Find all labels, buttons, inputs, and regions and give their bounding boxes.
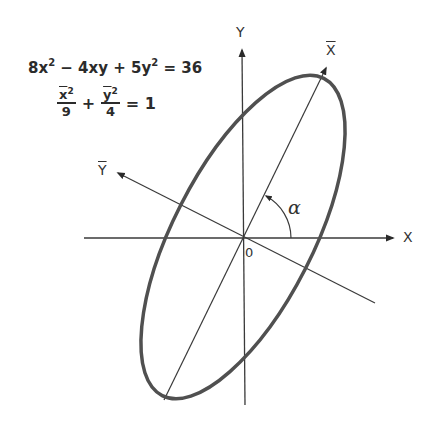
equation-rhs: = 1 xyxy=(126,94,156,113)
term-8x: 8x xyxy=(28,59,48,77)
angle-alpha-label: α xyxy=(288,196,301,218)
y-axis-label: Y xyxy=(236,24,245,40)
exponent: 2 xyxy=(67,86,73,96)
fraction-ybar: y2 4 xyxy=(101,87,120,120)
y-axis xyxy=(242,50,245,405)
denominator: 9 xyxy=(62,104,71,120)
standard-equation: x2 9 + y2 4 = 1 xyxy=(54,87,159,120)
exponent: 2 xyxy=(112,86,118,96)
x-bar-axis-label: X xyxy=(326,42,336,58)
origin-label: 0 xyxy=(245,245,253,260)
plus-sign: + xyxy=(82,94,95,113)
x-axis-label: X xyxy=(403,229,413,245)
exponent: 2 xyxy=(151,57,158,68)
y-bar-axis-label: Y xyxy=(98,162,107,178)
general-equation: 8x2 − 4xy + 5y2 = 36 xyxy=(28,59,202,77)
equation-rhs: = 36 xyxy=(163,59,202,77)
y-bar-var: y xyxy=(103,87,111,102)
term-5y: 5y xyxy=(131,59,151,77)
fraction-xbar: x2 9 xyxy=(57,87,76,120)
term-4xy: − 4xy + xyxy=(60,59,125,77)
exponent: 2 xyxy=(48,57,55,68)
denominator: 4 xyxy=(106,104,115,120)
